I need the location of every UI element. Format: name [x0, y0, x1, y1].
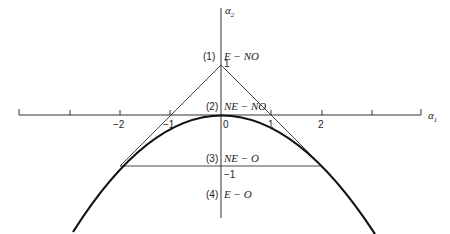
- region-1-num: (1): [203, 51, 215, 62]
- tick-2: 2: [318, 119, 324, 130]
- region-4-name: E − O: [223, 188, 252, 200]
- region-2-num: (2): [206, 101, 218, 112]
- region-3-num: (3): [206, 153, 218, 164]
- tick-neg2: −2: [113, 119, 125, 130]
- region-4-num: (4): [206, 189, 218, 200]
- region-3-name: NE − O: [223, 152, 259, 164]
- alpha1-axis: [19, 109, 421, 115]
- tick-1: 1: [268, 119, 274, 130]
- region-2-name: NE − NO: [223, 100, 266, 112]
- tick-y-neg1: −1: [224, 169, 236, 180]
- diagram-canvas: α1 α2 −2 −1 0 1 2 1 −1 (1) E − NO (2) NE…: [0, 0, 450, 234]
- alpha2-label: α2: [225, 4, 235, 19]
- alpha1-label: α1: [428, 109, 437, 124]
- region-1-name: E − NO: [223, 50, 259, 62]
- tick-0: 0: [223, 119, 229, 130]
- tick-neg1: −1: [163, 119, 175, 130]
